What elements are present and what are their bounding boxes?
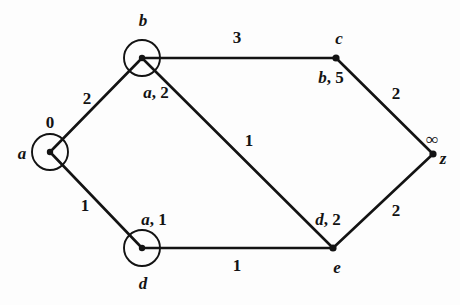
graph-canvas (0, 0, 460, 305)
node-dot-d (139, 245, 145, 251)
node-annotation-e: d, 2 (315, 211, 341, 228)
node-dot-e (329, 244, 336, 251)
node-label-z: z (440, 150, 447, 167)
node-dot-c (332, 54, 339, 61)
edge-weight-c-z: 2 (392, 85, 401, 102)
node-label-a: a (18, 145, 27, 162)
edge-e-z (333, 154, 433, 248)
node-label-b: b (139, 12, 148, 29)
node-layer (32, 40, 437, 266)
node-annotation-b: a, 2 (143, 84, 169, 101)
node-dot-b (139, 55, 145, 61)
node-label-d: d (139, 275, 148, 292)
edge-b-e (142, 58, 333, 248)
node-annotation-z: ∞ (426, 131, 438, 148)
edge-c-z (336, 58, 433, 154)
edge-a-b (50, 58, 142, 152)
edge-weight-b-e: 1 (245, 132, 254, 149)
node-dot-a (47, 149, 53, 155)
edge-a-d (50, 152, 142, 248)
node-annotation-a: 0 (46, 114, 55, 131)
node-label-e: e (333, 259, 341, 276)
edge-weight-e-z: 2 (392, 202, 401, 219)
edge-weight-d-e: 1 (233, 257, 242, 274)
node-label-c: c (335, 30, 343, 47)
edge-weight-b-c: 3 (233, 29, 242, 46)
edge-weight-a-b: 2 (83, 90, 92, 107)
edge-layer (50, 58, 433, 248)
node-annotation-d: a, 1 (141, 211, 167, 228)
graph-figure: 2321121a0ba, 2cb, 5da, 1ed, 2z∞ (0, 0, 460, 305)
edge-weight-a-d: 1 (81, 197, 90, 214)
node-dot-z (429, 150, 436, 157)
node-annotation-c: b, 5 (318, 69, 344, 86)
